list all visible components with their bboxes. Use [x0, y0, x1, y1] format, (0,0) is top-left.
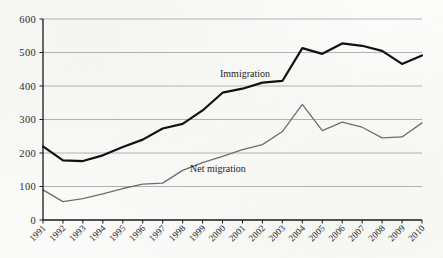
y-axis-ticks-group: 0100200300400500600 [19, 14, 43, 226]
x-axis-tick-label: 1998 [167, 223, 188, 244]
y-axis-tick-label: 400 [19, 81, 36, 92]
figure-container: 0100200300400500600 19911992199319941995… [0, 0, 443, 258]
y-axis-tick-label: 200 [19, 148, 36, 159]
x-axis-tick-label: 1994 [87, 223, 108, 244]
x-axis-tick-label: 2004 [287, 223, 308, 244]
y-axis-tick-label: 300 [19, 114, 36, 125]
net-migration-series-label: Net migration [190, 163, 246, 174]
gridlines-group [43, 19, 422, 187]
y-axis-tick-label: 0 [30, 215, 36, 226]
x-axis-tick-label: 2003 [267, 223, 288, 244]
x-axis-tick-label: 2008 [366, 223, 387, 244]
y-axis-tick-label: 600 [19, 14, 36, 25]
x-axis-tick-label: 1991 [27, 223, 48, 244]
series-line-immigration [43, 43, 422, 161]
x-axis-tick-label: 2010 [406, 223, 427, 244]
x-axis-tick-label: 1999 [187, 223, 208, 244]
line-chart: 0100200300400500600 19911992199319941995… [0, 0, 443, 258]
x-axis-tick-label: 2002 [247, 223, 268, 244]
x-axis-tick-label: 2006 [326, 223, 347, 244]
x-axis-tick-label: 2001 [227, 223, 248, 244]
y-axis-tick-label: 100 [19, 181, 36, 192]
x-axis-tick-label: 1996 [127, 223, 148, 244]
x-axis-tick-label: 1992 [47, 223, 68, 244]
x-axis-tick-label: 2007 [346, 223, 367, 244]
x-axis-tick-label: 2005 [307, 223, 328, 244]
x-axis-ticks-group: 1991199219931994199519961997199819992000… [27, 220, 427, 243]
x-axis-tick-label: 1997 [147, 223, 168, 244]
x-axis-tick-label: 1993 [67, 223, 88, 244]
x-axis-tick-label: 1995 [107, 223, 128, 244]
x-axis-tick-label: 2009 [386, 223, 407, 244]
x-axis-tick-label: 2000 [207, 223, 228, 244]
immigration-series-label: Immigration [220, 68, 270, 79]
y-axis-tick-label: 500 [19, 47, 36, 58]
